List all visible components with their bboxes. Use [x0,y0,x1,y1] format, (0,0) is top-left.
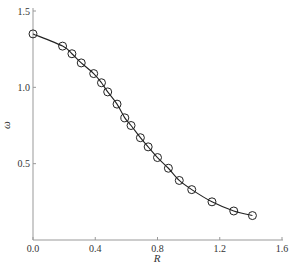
y-tick-label: 1.5 [18,6,31,17]
axis-ticks: 0.00.40.81.21.60.51.01.5 [18,6,289,255]
series-markers [29,30,256,220]
y-axis-label: ω [0,121,12,129]
x-tick-label: 0.4 [89,243,102,254]
x-tick-label: 1.6 [276,243,289,254]
plot-area: 0.00.40.81.21.60.51.01.5 [18,6,289,255]
x-axis-label: R [153,252,161,264]
y-tick-label: 1.0 [18,82,31,93]
chart-canvas: 0.00.40.81.21.60.51.01.5 R ω [0,0,294,277]
series-line [33,34,252,216]
x-tick-label: 0.0 [27,243,40,254]
y-tick-label: 0.5 [18,158,31,169]
x-tick-label: 1.2 [214,243,227,254]
